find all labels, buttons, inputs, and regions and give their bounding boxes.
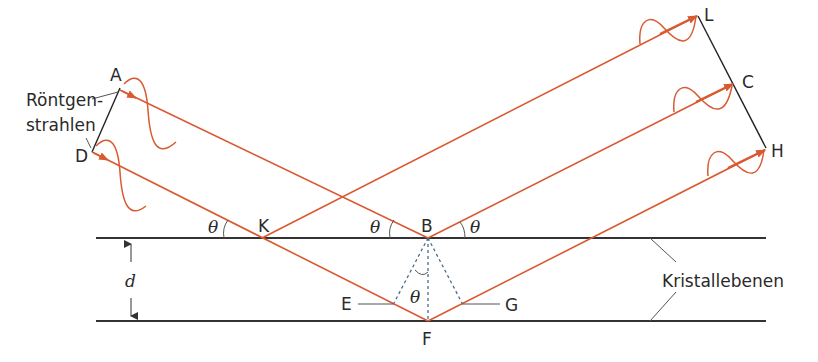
leader-planes-lower: [650, 292, 676, 321]
theta-arc-b-right: [460, 222, 465, 238]
reflected-ray-k: [262, 16, 697, 238]
label-theta-k: θ: [208, 217, 218, 237]
label-xray-line2: strahlen: [26, 115, 96, 135]
theta-arc-k: [224, 220, 229, 238]
label-a: A: [110, 65, 122, 85]
label-d-spacing: d: [125, 271, 136, 291]
label-g: G: [505, 295, 518, 315]
label-l: L: [704, 5, 714, 25]
bragg-diagram: A D K B E F G L C H θ θ θ θ d Röntgen- s…: [0, 0, 818, 362]
leader-planes-upper: [650, 238, 676, 262]
label-planes: Kristallebenen: [662, 271, 784, 291]
label-k: K: [258, 216, 270, 236]
label-theta-inner: θ: [410, 287, 420, 307]
label-b: B: [421, 216, 433, 236]
reflected-ray-b: [428, 84, 733, 238]
label-h: H: [771, 141, 784, 161]
theta-arc-inner: [415, 270, 428, 275]
theta-arc-b-left: [390, 220, 395, 238]
label-d: D: [75, 146, 88, 166]
reflected-wavefront: [698, 16, 766, 148]
label-c: C: [742, 72, 754, 92]
label-xray-line1: Röntgen-: [26, 90, 103, 110]
label-theta-b-right: θ: [470, 217, 480, 237]
perp-bg: [428, 238, 462, 303]
label-f: F: [422, 329, 432, 349]
incident-ray-upper: [120, 90, 428, 238]
label-theta-b-left: θ: [370, 217, 380, 237]
label-e: E: [341, 294, 352, 314]
